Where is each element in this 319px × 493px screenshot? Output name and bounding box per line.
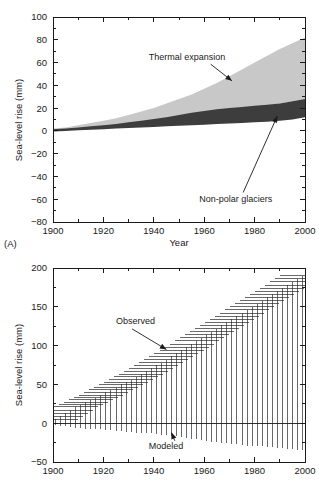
panel-b-svg: −50050100150200190019201940196019802000 …: [0, 250, 319, 493]
annotation-thermal-expansion: Thermal expansion: [149, 52, 226, 62]
x-tick-label: 2000: [294, 225, 315, 236]
x-tick-label: 1900: [42, 225, 63, 236]
panel-a-thermal-expansion-chart: −80−60−40−200204060801001900192019401960…: [0, 0, 319, 250]
y-tick-label: −20: [31, 148, 47, 159]
annotation-modeled: Modeled: [149, 441, 184, 451]
x-tick-label: 1960: [194, 465, 215, 476]
arrow-non-polar-glaciers: [243, 116, 277, 192]
panel-b-observed-modeled-chart: −50050100150200190019201940196019802000 …: [0, 250, 319, 493]
error-bar: [265, 285, 305, 449]
x-tick-label: 1940: [143, 225, 164, 236]
y-tick-label: 100: [31, 340, 47, 351]
arrow-modeled: [171, 433, 176, 441]
y-tick-label: −40: [31, 171, 47, 182]
annotation-observed: Observed: [116, 316, 155, 326]
x-tick-label: 1920: [93, 465, 114, 476]
panel-b-y-axis-title: Sea-level rise (mm): [13, 324, 24, 406]
y-tick-label: 40: [36, 80, 47, 91]
y-tick-label: 60: [36, 57, 47, 68]
y-tick-label: 20: [36, 103, 47, 114]
x-tick-label: 1920: [93, 225, 114, 236]
y-tick-label: 50: [36, 379, 47, 390]
sea-level-rise-figure: −80−60−40−200204060801001900192019401960…: [0, 0, 319, 493]
annotation-non-polar-glaciers: Non-polar glaciers: [199, 194, 273, 204]
x-tick-label: 1980: [244, 465, 265, 476]
panel-a-y-axis-title: Sea-level rise (mm): [13, 79, 24, 161]
y-tick-label: 150: [31, 301, 47, 312]
y-tick-label: 200: [31, 262, 47, 273]
y-tick-label: 80: [36, 34, 47, 45]
panel-a-label: (A): [4, 238, 17, 249]
y-tick-label: 100: [31, 11, 47, 22]
arrow-observed: [132, 329, 166, 350]
x-tick-label: 1960: [194, 225, 215, 236]
panel-a-x-axis-title: Year: [169, 237, 188, 248]
y-tick-label: −60: [31, 194, 47, 205]
x-tick-label: 1980: [244, 225, 265, 236]
y-tick-label: 0: [42, 125, 47, 136]
error-bar: [53, 416, 83, 425]
error-bar: [275, 279, 305, 450]
x-tick-label: 2000: [294, 465, 315, 476]
error-bar: [53, 410, 93, 427]
x-tick-label: 1900: [42, 465, 63, 476]
panel-a-svg: −80−60−40−200204060801001900192019401960…: [0, 0, 319, 250]
x-tick-label: 1940: [143, 465, 164, 476]
arrow-thermal-expansion: [211, 64, 232, 81]
y-tick-label: 0: [42, 418, 47, 429]
